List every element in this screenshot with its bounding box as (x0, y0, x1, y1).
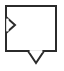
input-port-notch-mask (6, 19, 8, 32)
node-shape-diagram (0, 0, 64, 71)
diagram-canvas (0, 0, 64, 71)
output-port-notch-mask (30, 50, 43, 52)
node-body-rect[interactable] (6, 6, 56, 51)
triangle-down-icon[interactable] (28, 51, 44, 63)
